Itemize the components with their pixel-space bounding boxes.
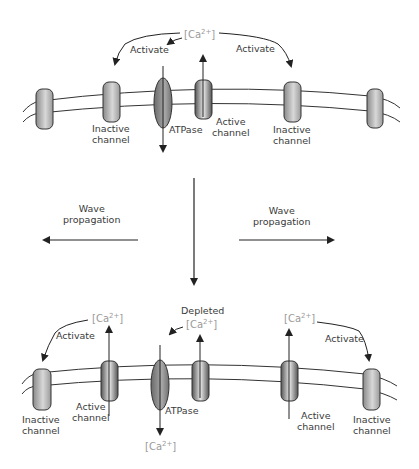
top-inactive-label-left: Inactive channel [92,123,130,145]
wave-right-label: Wave propagation [253,205,310,227]
bottom-depleted-label: Depleted [181,305,224,316]
top-activate-mid-arrow [168,38,182,44]
bottom-activate-left-label: Activate [56,330,95,341]
bottom-inactive-channel-right [363,369,380,410]
bottom-active-left-label: Active channel [72,401,110,423]
bottom-activate-right-label: Activate [325,333,364,344]
bottom-inactive-channel-left [33,369,51,410]
bottom-ca-bottom: [Ca2+] [145,439,176,452]
top-activate-left-label: Activate [130,44,169,55]
bottom-depleted-arrow [170,327,183,334]
bottom-atpase-label: ATPase [165,405,198,416]
wave-left-label: Wave propagation [63,203,120,225]
bottom-inactive-right-label: Inactive channel [353,414,391,436]
bottom-ca-depleted: [Ca2+] [186,317,217,330]
diagram-canvas [0,0,419,469]
bottom-active-right-label: Active channel [297,410,335,432]
top-inactive-channel-3 [284,82,301,122]
top-activate-right-label: Activate [236,43,275,54]
bottom-ca-right: [Ca2+] [284,311,315,324]
bottom-ca-left: [Ca2+] [92,311,123,324]
top-atpase-label: ATPase [169,124,202,135]
top-ca-label: [Ca2+] [184,27,215,40]
top-inactive-channel-4 [367,89,383,128]
top-inactive-channel-1 [36,89,53,129]
top-active-label: Active channel [212,116,250,138]
top-inactive-label-right: Inactive channel [273,124,311,146]
top-inactive-channel-2 [103,82,120,122]
bottom-inactive-left-label: Inactive channel [22,414,60,436]
